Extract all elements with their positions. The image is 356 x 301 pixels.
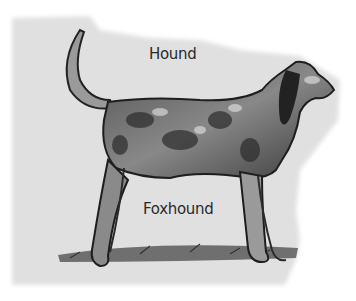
label-hound: Hound <box>149 45 197 63</box>
label-foxhound: Foxhound <box>143 200 214 218</box>
